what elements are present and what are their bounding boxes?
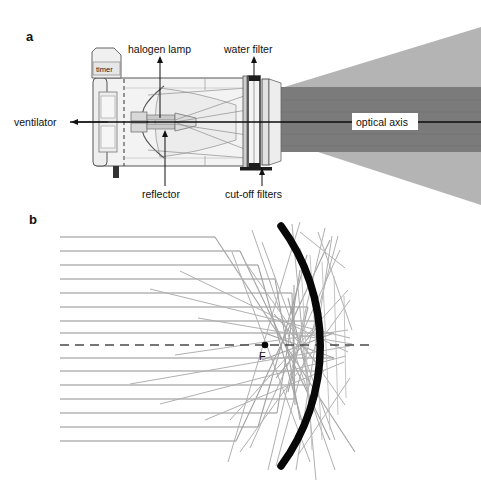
panel-a-label: a <box>26 29 34 44</box>
reflector-label: reflector <box>142 188 180 200</box>
focal-point-label: F <box>259 350 266 362</box>
housing-foot <box>113 166 119 178</box>
optical-axis-label: optical axis <box>356 116 408 128</box>
halogen-lamp-label: halogen lamp <box>128 43 191 55</box>
ventilator-vane-bottom <box>101 126 115 148</box>
filament-support-top <box>147 115 175 120</box>
figure-container: timer <box>0 0 481 490</box>
lamp-socket-bottom <box>131 123 147 132</box>
ventilator-label: ventilator <box>14 116 57 128</box>
lamp-socket-top <box>131 112 147 121</box>
panel-b-label: b <box>29 212 37 227</box>
water-filter-label: water filter <box>223 43 273 55</box>
cutoff-filters-label: cut-off filters <box>225 188 282 200</box>
ventilator-vane-top <box>101 96 115 118</box>
cutoff-filter-base <box>240 167 272 171</box>
timer-label: timer <box>96 65 113 74</box>
figure-svg: timer <box>0 0 481 490</box>
filament-support-bottom <box>147 124 175 129</box>
focal-point-marker <box>262 342 269 349</box>
